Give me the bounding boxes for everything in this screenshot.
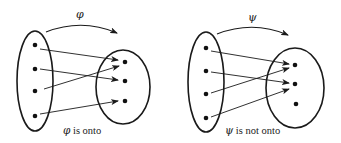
psi-codomain-point-2 — [293, 82, 298, 87]
diagram-canvas: φ φ is onto ψ ψ is not onto — [0, 0, 341, 143]
psi-domain-point-3 — [204, 92, 209, 97]
phi-arrow-3-to-1 — [44, 66, 119, 89]
psi-domain-point-4 — [204, 116, 209, 121]
phi-map-label: φ — [76, 8, 84, 21]
psi-diagram: ψ ψ is not onto — [188, 11, 324, 136]
phi-domain-point-3 — [33, 89, 38, 94]
phi-diagram: φ φ is onto — [17, 8, 150, 136]
psi-codomain-point-1 — [293, 63, 298, 68]
psi-caption-text: is not onto — [233, 125, 280, 136]
psi-codomain-point-3 — [294, 102, 299, 107]
phi-domain-point-4 — [33, 114, 38, 119]
psi-arrow-2-to-2 — [211, 72, 289, 83]
phi-codomain-point-3 — [123, 99, 128, 104]
psi-caption: ψ is not onto — [225, 124, 280, 136]
phi-domain-point-1 — [33, 43, 38, 48]
psi-codomain-set — [266, 48, 324, 128]
psi-arrow-3-to-1 — [211, 68, 289, 93]
phi-caption-text: is onto — [70, 125, 101, 136]
psi-domain-point-1 — [204, 46, 209, 51]
psi-map-arc — [217, 27, 288, 35]
phi-domain-point-2 — [33, 67, 38, 72]
phi-map-arc — [46, 25, 117, 33]
phi-caption: φ is onto — [63, 124, 101, 136]
phi-codomain-point-1 — [123, 60, 128, 65]
psi-domain-point-2 — [204, 69, 209, 74]
phi-codomain-point-2 — [123, 79, 128, 84]
psi-map-label: ψ — [248, 11, 257, 24]
